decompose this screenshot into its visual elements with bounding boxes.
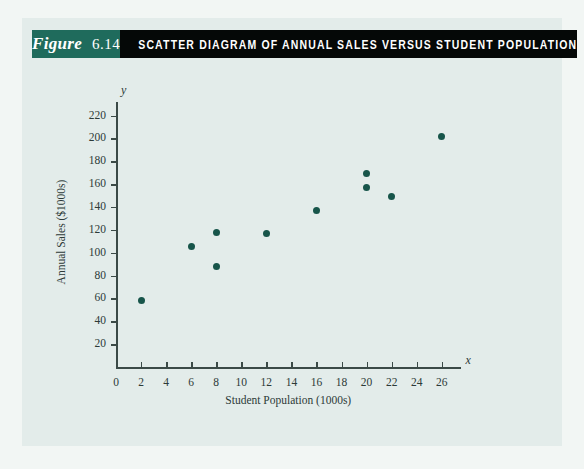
y-tick xyxy=(111,138,116,139)
figure-page: Figure 6.14 SCATTER DIAGRAM OF ANNUAL SA… xyxy=(0,0,584,469)
figure-title-banner: SCATTER DIAGRAM OF ANNUAL SALES VERSUS S… xyxy=(120,30,577,58)
x-tick xyxy=(417,362,418,367)
scatter-chart: 2040608010012014016018020022002468101214… xyxy=(22,62,562,430)
x-tick xyxy=(392,362,393,367)
y-tick xyxy=(111,184,116,185)
x-tick xyxy=(241,362,242,367)
y-tick-label-60: 60 xyxy=(72,291,106,303)
y-tick-label-160: 160 xyxy=(72,177,106,189)
x-tick xyxy=(367,362,368,367)
y-axis-label: Annual Sales ($1000s) xyxy=(55,152,67,312)
figure-tag: Figure 6.14 xyxy=(32,30,120,58)
figure-label-word: Figure xyxy=(32,34,82,54)
x-tick xyxy=(141,362,142,367)
x-axis-label: Student Population (1000s) xyxy=(56,394,521,406)
y-tick-label-80: 80 xyxy=(72,269,106,281)
x-tick xyxy=(216,362,217,367)
data-point-4 xyxy=(263,230,270,237)
y-tick-label-120: 120 xyxy=(72,223,106,235)
figure-title-bar: Figure 6.14 SCATTER DIAGRAM OF ANNUAL SA… xyxy=(32,30,550,58)
y-tick xyxy=(111,253,116,254)
x-tick xyxy=(191,362,192,367)
y-tick-label-100: 100 xyxy=(72,246,106,258)
y-tick xyxy=(111,344,116,345)
data-point-0 xyxy=(138,297,145,304)
y-tick-label-220: 220 xyxy=(72,109,106,121)
data-point-6 xyxy=(363,184,370,191)
y-axis-line xyxy=(116,102,118,367)
y-tick xyxy=(111,230,116,231)
y-tick xyxy=(111,207,116,208)
data-point-9 xyxy=(438,133,445,140)
figure-title-text: SCATTER DIAGRAM OF ANNUAL SALES VERSUS S… xyxy=(138,37,577,52)
y-tick xyxy=(111,321,116,322)
data-point-2 xyxy=(213,263,220,270)
data-point-8 xyxy=(388,193,395,200)
data-point-3 xyxy=(213,229,220,236)
x-tick xyxy=(266,362,267,367)
y-tick-label-20: 20 xyxy=(72,337,106,349)
x-axis-line xyxy=(116,367,461,369)
y-axis-variable-name: y xyxy=(121,83,126,98)
x-tick xyxy=(342,362,343,367)
data-point-7 xyxy=(363,170,370,177)
y-tick xyxy=(111,161,116,162)
y-tick-label-180: 180 xyxy=(72,154,106,166)
x-axis-variable-name: x xyxy=(466,353,471,368)
y-tick xyxy=(111,276,116,277)
y-tick xyxy=(111,116,116,117)
y-tick-label-40: 40 xyxy=(72,314,106,326)
x-tick xyxy=(442,362,443,367)
x-tick xyxy=(316,362,317,367)
y-tick-label-140: 140 xyxy=(72,200,106,212)
y-tick-label-200: 200 xyxy=(72,131,106,143)
x-tick xyxy=(291,362,292,367)
x-tick xyxy=(166,362,167,367)
data-point-1 xyxy=(188,243,195,250)
x-tick-label-26: 26 xyxy=(427,376,457,388)
y-tick xyxy=(111,298,116,299)
figure-number: 6.14 xyxy=(92,36,120,53)
data-point-5 xyxy=(313,207,320,214)
